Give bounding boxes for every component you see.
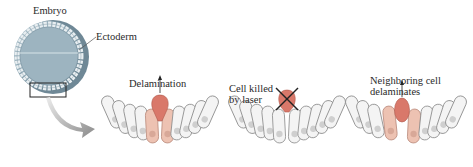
neighbor-label-line2: delaminates — [370, 86, 420, 97]
magnify-arrow-icon — [46, 97, 95, 138]
delamination-label: Delamination — [129, 78, 186, 89]
ectoderm-label: Ectoderm — [96, 31, 137, 42]
embryo-label: Embryo — [33, 5, 67, 16]
cell-killed-label-line2: by laser — [229, 94, 262, 105]
neighbor-label-line1: Neighboring cell — [370, 75, 441, 86]
cell-killed-label-line1: Cell killed — [229, 83, 273, 94]
